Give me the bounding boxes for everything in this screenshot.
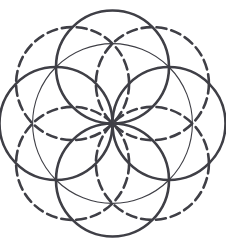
- figure-canvas: Rosette of eight overlapping circles Geo…: [0, 0, 226, 245]
- rosette-diagram: Rosette of eight overlapping circles Geo…: [0, 0, 226, 245]
